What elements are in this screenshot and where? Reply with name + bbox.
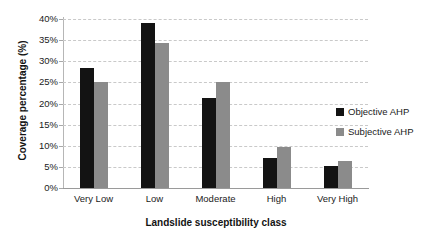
y-tick-label: 30%	[28, 56, 58, 66]
chart-figure: Coverage percentage (%) 0%5%10%15%20%25%…	[0, 0, 432, 238]
legend-label: Objective AHP	[348, 106, 409, 117]
y-tick-mark	[59, 146, 63, 147]
y-tick-label: 20%	[28, 99, 58, 109]
y-tick-label: 5%	[28, 162, 58, 172]
y-tick-label: 40%	[28, 14, 58, 24]
x-tick-label: Moderate	[185, 193, 246, 204]
legend-item[interactable]: Subjective AHP	[336, 126, 413, 137]
y-axis-tick-labels: 0%5%10%15%20%25%30%35%40%	[28, 13, 58, 193]
y-tick-label: 0%	[28, 183, 58, 193]
bar-group	[141, 19, 169, 188]
legend-item[interactable]: Objective AHP	[336, 106, 413, 117]
y-tick-mark	[59, 125, 63, 126]
bar[interactable]	[202, 98, 216, 188]
bar[interactable]	[216, 82, 230, 188]
y-tick-label: 10%	[28, 141, 58, 151]
y-tick-mark	[59, 61, 63, 62]
bar[interactable]	[155, 43, 169, 188]
y-axis-title: Coverage percentage (%)	[17, 6, 28, 196]
bar[interactable]	[141, 23, 155, 188]
y-tick-label: 35%	[28, 35, 58, 45]
bar[interactable]	[263, 158, 277, 188]
chart-legend: Objective AHPSubjective AHP	[336, 106, 413, 146]
legend-swatch-icon	[336, 128, 344, 136]
plot-area	[63, 19, 368, 188]
bar[interactable]	[277, 147, 291, 188]
y-tick-mark	[59, 19, 63, 20]
y-tick-label: 25%	[28, 77, 58, 87]
y-tick-label: 15%	[28, 120, 58, 130]
bar[interactable]	[324, 166, 338, 188]
bar[interactable]	[80, 68, 94, 188]
y-tick-mark	[59, 104, 63, 105]
bar[interactable]	[338, 161, 352, 188]
x-tick-label: Very High	[307, 193, 368, 204]
y-tick-mark	[59, 167, 63, 168]
x-axis-title: Landslide susceptibility class	[63, 217, 369, 228]
bar-group	[202, 19, 230, 188]
bar-group	[263, 19, 291, 188]
y-tick-mark	[59, 82, 63, 83]
x-tick-label: High	[246, 193, 307, 204]
x-axis-line	[63, 188, 369, 189]
bar-group	[324, 19, 352, 188]
bar[interactable]	[94, 82, 108, 188]
legend-swatch-icon	[336, 108, 344, 116]
legend-label: Subjective AHP	[348, 126, 413, 137]
x-tick-label: Very Low	[63, 193, 124, 204]
bar-group	[80, 19, 108, 188]
y-tick-mark	[59, 188, 63, 189]
y-tick-mark	[59, 40, 63, 41]
x-tick-label: Low	[124, 193, 185, 204]
